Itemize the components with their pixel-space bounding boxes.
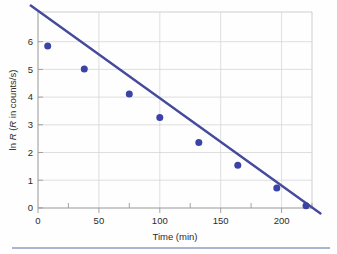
y-tick-label-1: 1 (28, 175, 33, 186)
x-axis-title: Time (min) (152, 231, 197, 242)
x-tick-label-50: 50 (94, 215, 105, 226)
data-point (126, 91, 133, 98)
data-point (273, 185, 280, 192)
y-tick-label-6: 6 (28, 36, 33, 47)
y-tick-label-3: 3 (28, 119, 33, 130)
y-axis-title: ln R (R in counts/s) (7, 70, 18, 151)
data-point (195, 139, 202, 146)
data-point (81, 65, 88, 72)
y-tick-label-2: 2 (28, 147, 33, 158)
x-tick-label-200: 200 (274, 215, 290, 226)
y-tick-label-5: 5 (28, 64, 33, 75)
data-point (234, 162, 241, 169)
data-point (156, 114, 163, 121)
y-tick-label-0: 0 (28, 202, 33, 213)
data-point (44, 42, 51, 49)
x-tick-label-100: 100 (152, 215, 168, 226)
x-tick-label-150: 150 (213, 215, 229, 226)
y-axis-title-part-ln: ln (7, 140, 18, 150)
y-axis-title-part-units: in counts/s) (7, 70, 18, 121)
figure-container: 0 1 2 3 4 5 6 0 50 100 150 200 Time (min… (0, 0, 337, 254)
decay-plot-svg: 0 1 2 3 4 5 6 0 50 100 150 200 Time (min… (0, 0, 337, 254)
y-tick-label-4: 4 (28, 91, 33, 102)
x-tick-label-0: 0 (35, 215, 40, 226)
data-point (303, 202, 310, 209)
